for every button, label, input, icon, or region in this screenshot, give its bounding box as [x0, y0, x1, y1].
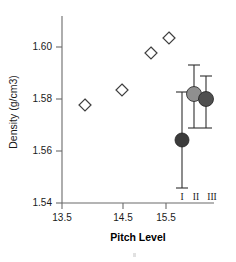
y-tick-label-0: 1.54	[33, 197, 53, 208]
data-point-diamond	[116, 84, 128, 96]
open-diamond-series	[79, 32, 175, 111]
data-point-diamond	[163, 32, 175, 44]
group-label-I: I	[180, 192, 183, 202]
x-tick-label-0: 13.5	[52, 212, 72, 223]
group-label-III: III	[207, 192, 217, 202]
y-axis-ticks	[56, 47, 62, 203]
y-tick-label-2: 1.58	[33, 93, 53, 104]
scan-artifact	[133, 253, 136, 257]
y-tick-label-3: 1.60	[33, 41, 53, 52]
data-point-diamond	[145, 47, 157, 59]
x-tick-label-1: 14.5	[113, 212, 133, 223]
group-label-II: II	[193, 192, 199, 202]
chart-figure: 1.54 1.56 1.58 1.60 13.5 14.5 15.5 Pitch…	[0, 0, 236, 262]
density-vs-pitch-level-scatter-plot: 1.54 1.56 1.58 1.60 13.5 14.5 15.5 Pitch…	[0, 0, 236, 262]
x-axis-title: Pitch Level	[110, 231, 166, 243]
x-axis-ticks	[62, 203, 166, 209]
y-tick-label-1: 1.56	[33, 145, 53, 156]
data-point-circle-III	[199, 92, 214, 107]
y-axis-title: Density (g/cm3)	[7, 75, 19, 149]
error-bar-group-I	[175, 92, 189, 188]
data-point-circle-I	[175, 133, 189, 147]
data-point-diamond	[79, 99, 91, 111]
error-bar-group-III	[199, 76, 214, 128]
x-tick-label-2: 15.5	[156, 212, 176, 223]
